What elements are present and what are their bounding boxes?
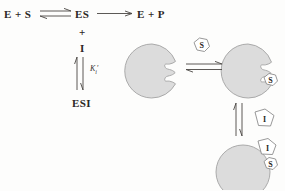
es-complex: S [221, 44, 277, 98]
bound-inhibitor-pentagon: I [258, 139, 276, 155]
bound-inhibitor-label: I [266, 144, 269, 153]
arrow-substrate-binding [186, 61, 222, 72]
figure-canvas: E + S ES E + P + I ESI Ki′ [0, 0, 285, 190]
arrow-inhibitor-binding [234, 103, 242, 136]
free-enzyme [125, 44, 176, 98]
free-inhibitor-label: I [263, 115, 266, 124]
free-inhibitor: I [255, 109, 274, 126]
bound-substrate-label: S [268, 76, 273, 85]
free-substrate-label: S [200, 41, 205, 50]
esi-complex: I S [216, 139, 278, 191]
cartoon-layer: S I S S I [0, 0, 285, 190]
bound-substrate-label-2: S [268, 160, 273, 169]
free-substrate: S [194, 38, 210, 52]
